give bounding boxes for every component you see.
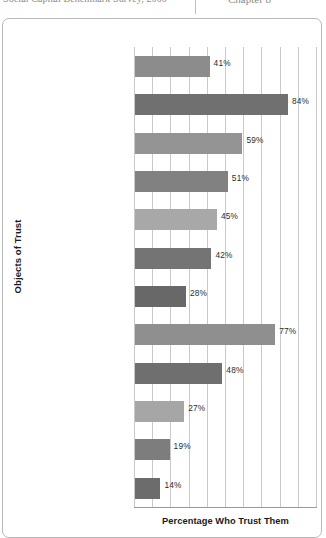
x-axis-title: Percentage Who Trust Them (134, 516, 317, 526)
bar (135, 401, 184, 422)
chart-bar-row: Fire department77% (134, 315, 316, 353)
bar (135, 94, 288, 115)
y-axis-title: Objects of Trust (12, 197, 23, 317)
chart-bar-row: Local TV news27% (134, 392, 316, 430)
page-header-right-text: Chapter 8 (228, 0, 271, 5)
bar (135, 286, 186, 307)
bar-value-label: 48% (226, 365, 243, 375)
chart-bar-row: Government14% (134, 469, 316, 507)
bar (135, 439, 170, 460)
bar-value-label: 45% (221, 211, 238, 221)
bar (135, 363, 222, 384)
bar (135, 56, 210, 77)
page-header-left-text: Social Capital Benchmark Survey, 2000 (3, 0, 167, 4)
bar-value-label: 19% (174, 441, 191, 451)
bar (135, 248, 211, 269)
chart-bar-row: Co-workers45% (134, 200, 316, 238)
gridline (316, 47, 317, 507)
bar-value-label: 42% (215, 250, 232, 260)
bar-value-label: 84% (292, 96, 309, 106)
chart-bar-row: Family members84% (134, 85, 316, 123)
bar (135, 133, 242, 154)
chart-bar-row: Neighbors42% (134, 239, 316, 277)
bar-value-label: 51% (232, 173, 249, 183)
bar-value-label: 14% (164, 480, 181, 490)
bar (135, 171, 228, 192)
chart-bar-row: Clerks in stores28% (134, 277, 316, 315)
chart-bar-row: People in general41% (134, 47, 316, 85)
chart-bar-row: Boss51% (134, 162, 316, 200)
bar-value-label: 41% (214, 58, 231, 68)
x-axis-line (134, 507, 317, 508)
chart-figure-box: Objects of Trust People in general41%Fam… (2, 18, 322, 538)
bar-value-label: 28% (190, 288, 207, 298)
chart-plot-area: People in general41%Family members84%Fel… (134, 47, 316, 507)
chart-bar-row: Daily newspapers19% (134, 430, 316, 468)
bar-value-label: 27% (188, 403, 205, 413)
bar-value-label: 59% (246, 135, 263, 145)
page-top-text-strip: Social Capital Benchmark Survey, 2000 Ch… (0, 0, 326, 14)
bar (135, 209, 217, 230)
bar (135, 478, 160, 499)
bar-value-label: 77% (279, 326, 296, 336)
chart-bar-row: Fellow churchgoers59% (134, 124, 316, 162)
chart-bar-row: Police department48% (134, 354, 316, 392)
bar (135, 324, 275, 345)
page-header-divider (195, 0, 196, 14)
